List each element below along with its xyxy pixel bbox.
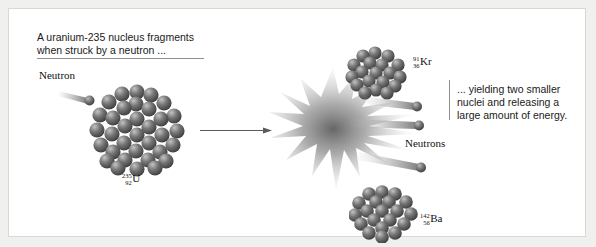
caption-premise-rule <box>37 58 204 59</box>
figure-root: A uranium-235 nucleus fragments when str… <box>0 0 596 247</box>
krypton-atomic-number: 36 <box>413 62 420 69</box>
figure-panel: A uranium-235 nucleus fragments when str… <box>8 8 586 237</box>
uranium-symbol: U <box>132 173 140 184</box>
krypton-symbol: Kr <box>420 56 432 67</box>
label-emitted-neutrons: Neutrons <box>405 137 445 149</box>
caption-result-rule <box>449 80 450 120</box>
isotope-label-barium: 142 56 Ba <box>420 212 442 225</box>
barium-symbol: Ba <box>430 213 442 224</box>
emitted-neutron-3-icon <box>353 149 429 175</box>
isotope-label-krypton: 91 36 Kr <box>413 55 432 68</box>
uranium-nucleus-icon <box>88 82 186 180</box>
uranium-atomic-number: 92 <box>125 179 132 186</box>
krypton-nucleus-icon <box>345 46 407 102</box>
barium-atomic-number: 56 <box>423 219 430 226</box>
barium-nucleus-icon <box>349 185 419 243</box>
reaction-arrow-icon <box>200 127 272 134</box>
caption-result: ... yielding two smaller nuclei and rele… <box>457 83 589 122</box>
isotope-label-uranium: 235 92 U <box>122 172 140 185</box>
emitted-neutron-2-icon <box>349 113 427 137</box>
caption-premise: A uranium-235 nucleus fragments when str… <box>37 31 252 57</box>
label-incoming-neutron: Neutron <box>39 69 75 81</box>
